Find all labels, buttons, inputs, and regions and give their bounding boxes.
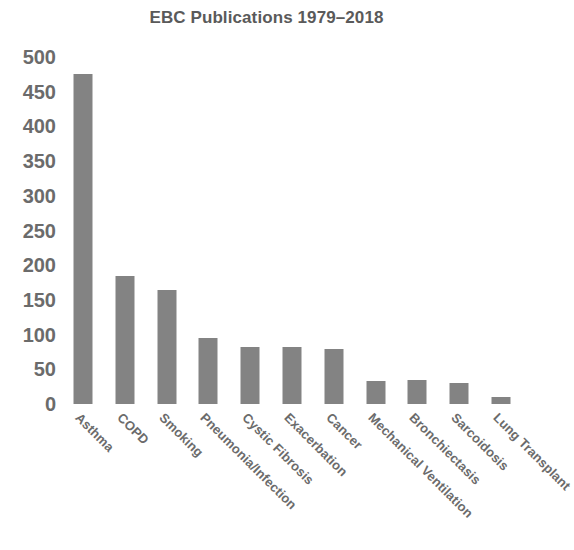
y-axis: 500450400350300250200150100500 [0, 57, 56, 404]
bar[interactable] [366, 381, 385, 404]
x-label-slot: Exacerbation [271, 404, 313, 550]
x-label-slot: Asthma [62, 404, 104, 550]
bar-slot [62, 57, 104, 404]
bar-slot [480, 57, 522, 404]
plot-area [62, 57, 522, 404]
y-axis-tick-label: 500 [0, 47, 56, 67]
bar[interactable] [282, 347, 301, 404]
y-axis-tick-label: 450 [0, 82, 56, 102]
bar-slot [229, 57, 271, 404]
bar-slot [438, 57, 480, 404]
x-label-slot: Mechanical Ventilation [355, 404, 397, 550]
x-label-slot: Pneumonia/Infection [187, 404, 229, 550]
bar-slot [146, 57, 188, 404]
bar-slot [397, 57, 439, 404]
bar[interactable] [450, 383, 469, 404]
x-label-slot: Bronchiectasis [397, 404, 439, 550]
bar[interactable] [408, 380, 427, 404]
x-label-slot: Smoking [146, 404, 188, 550]
bar[interactable] [492, 397, 511, 404]
x-label-slot: Cancer [313, 404, 355, 550]
y-axis-tick-label: 350 [0, 151, 56, 171]
y-axis-tick-label: 300 [0, 186, 56, 206]
bar-slot [313, 57, 355, 404]
y-axis-tick-label: 150 [0, 290, 56, 310]
bar[interactable] [241, 347, 260, 404]
chart-title: EBC Publications 1979–2018 [0, 8, 533, 28]
x-axis: AsthmaCOPDSmokingPneumonia/InfectionCyst… [62, 404, 522, 550]
bar-slot [104, 57, 146, 404]
y-axis-tick-label: 100 [0, 325, 56, 345]
y-axis-tick-label: 0 [0, 394, 56, 414]
bar[interactable] [324, 349, 343, 404]
x-label-slot: Cystic Fibrosis [229, 404, 271, 550]
bar-slot [355, 57, 397, 404]
x-axis-tick-label: Lung Transplant [490, 410, 573, 493]
y-axis-tick-label: 400 [0, 116, 56, 136]
bar[interactable] [115, 276, 134, 404]
x-label-slot: Lung Transplant [480, 404, 522, 550]
x-label-slot: COPD [104, 404, 146, 550]
bar[interactable] [199, 338, 218, 404]
y-axis-tick-label: 200 [0, 255, 56, 275]
bar[interactable] [73, 74, 92, 404]
y-axis-tick-label: 250 [0, 221, 56, 241]
bar-slot [187, 57, 229, 404]
bar[interactable] [157, 290, 176, 405]
y-axis-tick-label: 50 [0, 359, 56, 379]
bar-slot [271, 57, 313, 404]
x-label-slot: Sarcoidosis [438, 404, 480, 550]
